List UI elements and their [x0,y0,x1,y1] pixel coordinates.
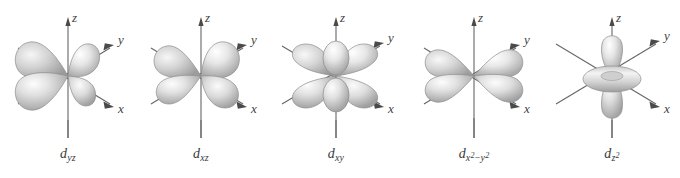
orbital-label-d-xy: dxy [268,146,404,163]
z-axis-label: z [339,10,345,25]
lobe-lower-right [201,76,238,108]
y-axis-arrowhead [650,39,661,46]
x-axis-arrowhead [510,102,521,109]
orbital-lobes [154,42,239,108]
orbital-panel-d-z2: z y x dz2 [544,0,680,178]
orbital-label-subscript: xy [335,152,344,163]
orbital-label-d-xz: dxz [133,146,269,163]
orbital-label-subscript-x: x2−y2 [466,152,490,163]
z-axis-label: z [615,10,621,25]
d-z2-diagram: z y x [544,0,680,150]
orbital-label-d-x2-y2: dx2−y2 [406,146,542,163]
d-orbital-figure: z y x dyz [0,0,680,178]
lobe-upper-right [201,42,239,78]
lobe-upper-left [425,50,474,79]
orbital-label-d-z2: dz2 [544,146,680,163]
z-axis-arrowhead [471,17,476,26]
d-yz-diagram: z y x [0,0,136,150]
lobe-lower-right [68,76,96,106]
lobe-upper-right [68,44,100,77]
orbital-label-d-yz: dyz [0,146,136,163]
orbital-lobes [583,36,641,119]
x-axis-arrowhead [237,102,248,109]
orbital-label-base: d [459,146,466,161]
z-axis-arrowhead [609,17,614,26]
lobe-upper-left [154,46,201,78]
x-axis-label: x [387,101,394,116]
y-axis-arrowhead [374,41,385,48]
orbital-label-subscript-z: z2 [611,152,619,163]
orbital-panel-d-xy: z y x dxy [268,0,404,178]
d-xy-diagram: z y x [268,0,404,150]
orbital-lobes [15,42,99,110]
x-axis-label: x [250,101,257,116]
lobe-top-front [323,41,349,75]
z-axis-label: z [71,10,77,25]
y-axis-arrowhead [104,43,115,50]
lobe-lower-left [15,73,68,111]
orbital-panel-d-x2-y2: z y x dx2−y2 [406,0,542,178]
x-axis-label: x [663,101,670,116]
z-axis-label: z [477,10,483,25]
orbital-panel-d-yz: z y x dyz [0,0,136,178]
lobe-lower-right [474,74,523,102]
y-axis-label: y [386,30,394,45]
y-axis-arrowhead [237,43,248,50]
lobe-bottom-front [323,78,349,112]
d-xz-diagram: z y x [133,0,269,150]
y-axis-label: y [662,28,670,43]
x-axis-label: x [523,101,530,116]
y-axis-label: y [249,32,257,47]
torus-inner-hole [601,72,623,81]
sup-2-second: 2 [485,150,489,159]
y-axis-arrowhead [510,43,521,50]
y-axis-label: y [522,32,530,47]
z-axis-arrowhead [198,17,203,26]
sup-2: 2 [616,150,620,159]
x-axis-arrowhead [650,102,661,109]
lobe-lower-left [156,75,201,104]
orbital-label-base: d [328,146,335,161]
x-axis-arrowhead [104,102,115,109]
z-axis-arrowhead [333,17,338,26]
orbital-lobes [292,41,377,112]
d-x2-y2-diagram: z y x [406,0,542,150]
lobe-lower-left [425,74,474,102]
orbital-label-subscript: xz [200,152,209,163]
z-axis-arrowhead [65,17,70,26]
x-axis-label: x [117,101,124,116]
y-axis-label: y [116,32,124,47]
z-axis-label: z [204,10,210,25]
lobe-upper-right [474,50,523,79]
orbital-panel-d-xz: z y x dxz [133,0,269,178]
orbital-label-subscript: yz [67,152,76,163]
